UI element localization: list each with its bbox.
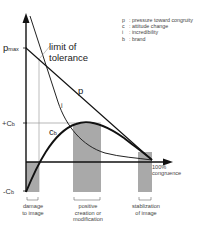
brace-stabilization (139, 197, 151, 200)
label-plus-cb: +Cb (2, 119, 15, 129)
legend-item-b: b: brand (122, 36, 193, 42)
zone-positive-shade (73, 124, 101, 192)
legend: p: pressure toward congruity c: attitude… (122, 17, 193, 42)
label-minus-cb: -Cb (3, 187, 14, 197)
y-axis-arrow-icon (23, 13, 30, 23)
label-100-congruence: 100% congruence (152, 164, 181, 177)
label-curve-i: i (61, 101, 63, 110)
brace-positive (74, 197, 100, 200)
label-curve-p: p (78, 85, 83, 96)
caption-stabilization: stablization of image (124, 203, 168, 216)
caption-damage: damage to image (13, 203, 53, 216)
label-limit-of-tolerance: limit of tolerance (49, 41, 88, 63)
label-pmax: pmax (3, 42, 19, 55)
label-curve-cb: cb (49, 126, 57, 139)
brace-damage (27, 197, 38, 200)
caption-positive: positive creation or modification (64, 203, 112, 223)
